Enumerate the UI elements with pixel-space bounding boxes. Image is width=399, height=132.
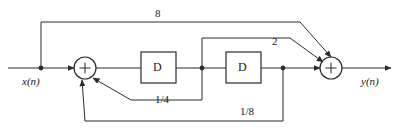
signal-flow-diagram: D D 8 2 1/4 1/8 x(n) y(n) — [0, 0, 399, 132]
diagram-canvas — [0, 0, 399, 132]
junction-tap-after-delay-2 — [281, 66, 286, 71]
output-signal-label: y(n) — [361, 76, 379, 87]
gain-2-label: 2 — [272, 36, 278, 47]
junction-tap-after-delay-1 — [200, 66, 205, 71]
gain-eighth-label: 1/8 — [240, 106, 254, 117]
gain-8-label: 8 — [155, 8, 161, 19]
junction-tap-input — [39, 66, 44, 71]
input-signal-label: x(n) — [22, 76, 40, 87]
gain-quarter-label: 1/4 — [155, 94, 169, 105]
delay-block-1-label: D — [153, 61, 162, 73]
delay-block-2-label: D — [238, 61, 247, 73]
wire-gain-2-feedforward — [202, 38, 323, 68]
